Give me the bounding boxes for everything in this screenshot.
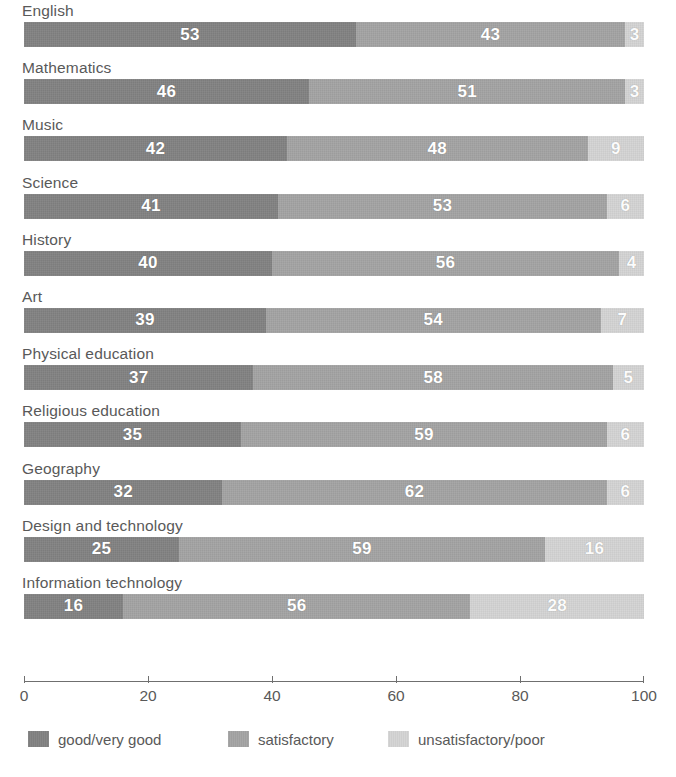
bar-segment-value: 41 xyxy=(141,196,161,216)
bar-segment-value: 54 xyxy=(423,310,443,330)
bar-segment-value: 16 xyxy=(585,539,605,559)
bar-segment-value: 7 xyxy=(617,310,627,330)
bar-segment-1: 35 xyxy=(24,422,241,447)
x-axis-tick-label: 80 xyxy=(511,687,528,705)
bar-segment-value: 5 xyxy=(624,368,634,388)
bar-row-label: Geography xyxy=(22,458,100,480)
bar-track: 53433 xyxy=(24,22,644,47)
bar-segment-3: 6 xyxy=(607,422,644,447)
bar-segment-2: 58 xyxy=(253,365,613,390)
bar-row: Physical education37585 xyxy=(0,343,676,400)
bar-segment-value: 59 xyxy=(352,539,372,559)
bar-segment-1: 41 xyxy=(24,194,278,219)
legend-item: good/very good xyxy=(28,728,161,750)
bar-segment-1: 39 xyxy=(24,308,266,333)
bar-segment-1: 32 xyxy=(24,480,222,505)
bar-row-label: Science xyxy=(22,172,78,194)
bar-row: History40564 xyxy=(0,229,676,286)
bar-segment-value: 56 xyxy=(287,596,307,616)
x-axis-tick xyxy=(272,676,273,683)
chart-legend: good/very goodsatisfactoryunsatisfactory… xyxy=(0,728,676,752)
x-axis-tick-label: 20 xyxy=(139,687,156,705)
bar-segment-value: 28 xyxy=(547,596,567,616)
bar-segment-value: 40 xyxy=(138,253,158,273)
legend-label: satisfactory xyxy=(258,731,334,748)
bar-segment-value: 53 xyxy=(433,196,453,216)
bar-segment-value: 6 xyxy=(620,482,630,502)
bar-segment-1: 16 xyxy=(24,594,123,619)
bar-segment-value: 56 xyxy=(436,253,456,273)
bar-row: Music42489 xyxy=(0,114,676,171)
bar-segment-3: 4 xyxy=(619,251,644,276)
legend-label: good/very good xyxy=(58,731,161,748)
bar-row-label: Music xyxy=(22,114,63,136)
bar-row-label: History xyxy=(22,229,71,251)
bar-segment-1: 46 xyxy=(24,79,309,104)
bar-row-label: Design and technology xyxy=(22,515,183,537)
bar-segment-value: 25 xyxy=(92,539,112,559)
x-axis-tick-label: 100 xyxy=(631,687,657,705)
bar-segment-1: 25 xyxy=(24,537,179,562)
bar-row: Mathematics46513 xyxy=(0,57,676,114)
legend-label: unsatisfactory/poor xyxy=(418,731,545,748)
bar-segment-2: 48 xyxy=(287,136,588,161)
bar-segment-value: 3 xyxy=(630,25,640,45)
bar-segment-2: 59 xyxy=(241,422,607,447)
legend-swatch-icon xyxy=(228,731,249,747)
bar-segment-3: 16 xyxy=(545,537,644,562)
bar-segment-2: 53 xyxy=(278,194,607,219)
bar-segment-3: 6 xyxy=(607,480,644,505)
bar-segment-value: 37 xyxy=(129,368,149,388)
bar-row-label: Mathematics xyxy=(22,57,112,79)
bar-segment-3: 9 xyxy=(588,136,644,161)
legend-item: unsatisfactory/poor xyxy=(388,728,545,750)
bar-row: Design and technology255916 xyxy=(0,515,676,572)
bar-segment-value: 9 xyxy=(611,139,621,159)
bar-row: Art39547 xyxy=(0,286,676,343)
bar-track: 32626 xyxy=(24,480,644,505)
bar-segment-3: 3 xyxy=(625,22,644,47)
bar-segment-3: 3 xyxy=(625,79,644,104)
bar-segment-2: 59 xyxy=(179,537,545,562)
bar-segment-value: 58 xyxy=(423,368,443,388)
stacked-bar-chart: English53433Mathematics46513Music42489Sc… xyxy=(0,0,676,777)
bar-segment-3: 28 xyxy=(470,594,644,619)
x-axis-tick-label: 0 xyxy=(20,687,29,705)
bar-segment-value: 46 xyxy=(157,82,177,102)
x-axis-tick-label: 40 xyxy=(263,687,280,705)
bar-track: 46513 xyxy=(24,79,644,104)
bar-segment-2: 43 xyxy=(356,22,625,47)
bar-segment-value: 39 xyxy=(135,310,155,330)
bar-track: 41536 xyxy=(24,194,644,219)
legend-swatch-icon xyxy=(28,731,49,747)
bar-segment-value: 53 xyxy=(180,25,200,45)
bar-row-label: Art xyxy=(22,286,42,308)
x-axis-tick-label: 60 xyxy=(387,687,404,705)
bar-segment-1: 53 xyxy=(24,22,356,47)
bar-row-label: English xyxy=(22,0,74,22)
bar-track: 40564 xyxy=(24,251,644,276)
bar-segment-value: 51 xyxy=(458,82,478,102)
bar-segment-1: 40 xyxy=(24,251,272,276)
bar-row-label: Information technology xyxy=(22,572,182,594)
bar-row-label: Physical education xyxy=(22,343,154,365)
bar-segment-2: 56 xyxy=(272,251,619,276)
bar-row: Geography32626 xyxy=(0,458,676,515)
bar-segment-3: 7 xyxy=(601,308,644,333)
bar-segment-value: 48 xyxy=(428,139,448,159)
x-axis-tick xyxy=(24,676,25,683)
bar-track: 165628 xyxy=(24,594,644,619)
bar-segment-1: 42 xyxy=(24,136,287,161)
bar-segment-value: 4 xyxy=(627,253,637,273)
bar-row: Science41536 xyxy=(0,172,676,229)
bar-segment-1: 37 xyxy=(24,365,253,390)
bar-segment-value: 3 xyxy=(630,82,640,102)
bar-segment-value: 62 xyxy=(405,482,425,502)
x-axis-tick xyxy=(643,676,644,683)
x-axis-tick xyxy=(148,676,149,683)
x-axis-tick xyxy=(396,676,397,683)
bar-segment-value: 16 xyxy=(64,596,84,616)
bar-segment-2: 62 xyxy=(222,480,606,505)
bar-segment-2: 51 xyxy=(309,79,625,104)
x-axis-line xyxy=(24,681,644,682)
